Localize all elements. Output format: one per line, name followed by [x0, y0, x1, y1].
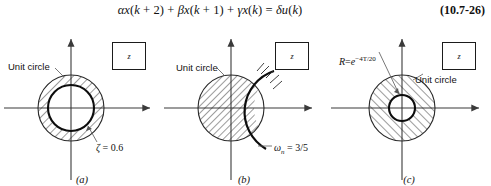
radius-annotation: R=e−4T/20	[339, 55, 376, 67]
omega-symbol: ω	[274, 142, 281, 153]
zeta-value: 0.6	[111, 142, 124, 153]
radius-exponent: −4T/20	[355, 55, 376, 63]
z-plane-label: z	[443, 43, 475, 69]
panel-c-caption: (c)	[327, 174, 491, 185]
unit-circle-label: Unit circle	[415, 74, 457, 85]
zeta-relation: =	[103, 142, 109, 153]
panel-a-caption: (a)	[0, 174, 164, 185]
panel-b-caption: (b)	[162, 174, 326, 185]
unit-circle-label: Unit circle	[176, 62, 218, 73]
omega-subscript: n	[281, 148, 285, 156]
equation-number: (10.7-26)	[440, 3, 485, 18]
omega-value: 3/5	[295, 142, 308, 153]
omega-n-annotation: ωn = 3/5	[274, 142, 308, 156]
z-plane-marker-box: z	[442, 42, 476, 70]
zeta-annotation: ζ = 0.6	[96, 142, 123, 153]
figure-root: αx(k + 2) + βx(k + 1) + γx(k) = δu(k) (1…	[0, 0, 491, 186]
zeta-symbol: ζ	[96, 142, 100, 153]
equation-row: αx(k + 2) + βx(k + 1) + γx(k) = δu(k) (1…	[0, 3, 491, 23]
z-plane-marker-box: z	[275, 42, 309, 70]
z-plane-label: z	[276, 43, 308, 69]
panel-a: z Unit circle ζ = 0.6 (a)	[0, 30, 164, 186]
omega-relation: =	[287, 142, 293, 153]
panel-b: z Unit circle ωn = 3/5 (b)	[162, 30, 326, 186]
unit-circle-label: Unit circle	[8, 61, 50, 72]
equation-text: αx(k + 2) + βx(k + 1) + γx(k) = δu(k)	[0, 3, 420, 18]
z-plane-label: z	[113, 43, 145, 69]
z-plane-marker-box: z	[112, 42, 146, 70]
panel-c: z R=e−4T/20 Unit circle (c)	[327, 30, 491, 186]
